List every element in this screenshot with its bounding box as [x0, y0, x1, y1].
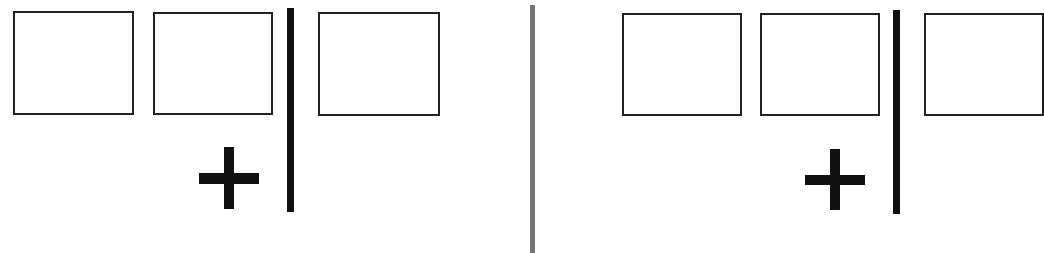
answer-box-6	[924, 13, 1044, 116]
right-panel	[536, 0, 949, 253]
panel-divider	[530, 5, 535, 253]
answer-box-1	[13, 11, 134, 115]
separator-bar	[287, 8, 294, 212]
answer-box-5	[760, 13, 880, 116]
answer-box-3	[318, 12, 440, 116]
answer-box-2	[153, 12, 273, 115]
left-panel	[0, 0, 528, 253]
answer-box-4	[622, 13, 742, 116]
separator-bar	[893, 10, 900, 214]
